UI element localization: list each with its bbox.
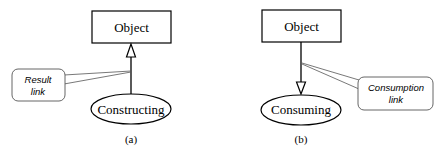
- callout-text-a-line2: link: [31, 86, 47, 97]
- object-label-b: Object: [284, 19, 319, 34]
- callout-pointer-a1: [64, 71, 131, 75]
- result-arrowhead-icon: [127, 44, 136, 57]
- callout-text-a-line1: Result: [25, 74, 52, 85]
- callout-pointer-a2: [64, 72, 131, 84]
- caption-a: (a): [125, 133, 138, 146]
- diagram-canvas: Object Constructing Result link (a) Obje…: [0, 0, 442, 155]
- callout-text-b-line2: link: [389, 94, 405, 105]
- callout-pointer-b1: [302, 63, 359, 80]
- callout-pointer-b2: [302, 64, 359, 89]
- diagram-a: Object Constructing Result link (a): [12, 11, 171, 146]
- callout-text-b-line1: Consumption: [368, 82, 424, 93]
- object-label-a: Object: [114, 20, 149, 35]
- diagram-b: Object Consuming Consumption link (b): [261, 10, 433, 146]
- process-label-a: Constructing: [97, 102, 165, 117]
- consumption-arrowhead-icon: [297, 82, 306, 94]
- caption-b: (b): [295, 133, 308, 146]
- process-label-b: Consuming: [271, 102, 331, 117]
